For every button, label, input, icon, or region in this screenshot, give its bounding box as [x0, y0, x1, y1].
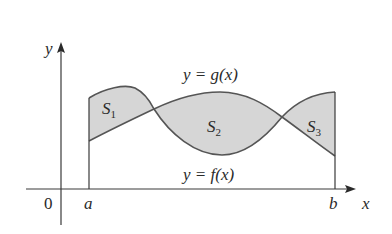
curve-g-label: y = g(x) [181, 65, 238, 84]
y-axis-label: y [43, 39, 53, 58]
origin-label: 0 [44, 194, 53, 213]
area-between-curves-diagram: y x 0 a b y = g(x) y = f(x) S1 S2 S3 [0, 0, 392, 234]
bound-b-label: b [329, 194, 338, 213]
curve-f-label: y = f(x) [181, 165, 234, 184]
bound-a-label: a [84, 194, 93, 213]
x-axis-label: x [361, 194, 370, 213]
